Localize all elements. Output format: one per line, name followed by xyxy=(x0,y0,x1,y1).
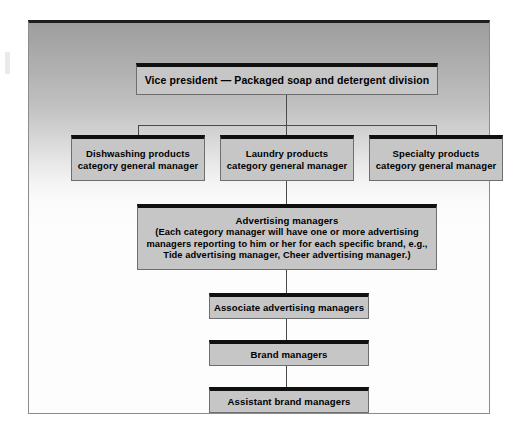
node-dishwashing-line1: Dishwashing products xyxy=(78,148,199,160)
node-brand-managers: Brand managers xyxy=(209,340,369,366)
connector-laundry-to-advertising xyxy=(286,181,287,204)
node-specialty-line1: Specialty products xyxy=(376,148,497,160)
node-dishwashing-products: Dishwashing products category general ma… xyxy=(71,135,205,181)
node-laundry-line1: Laundry products xyxy=(227,148,348,160)
node-advertising-line1: (Each category manager will have one or … xyxy=(146,227,427,239)
node-assistant-label: Assistant brand managers xyxy=(210,396,368,408)
connector-brand-to-assistant xyxy=(286,366,287,387)
connector-bus-to-laundry xyxy=(286,125,287,135)
node-vice-president-label: Vice president — Packaged soap and deter… xyxy=(137,74,437,87)
node-specialty-line2: category general manager xyxy=(376,160,497,172)
connector-bus-to-dishwashing xyxy=(138,125,139,135)
org-chart-canvas: Vice president — Packaged soap and deter… xyxy=(0,0,516,436)
connector-vp-to-bus xyxy=(286,95,287,125)
node-advertising-title: Advertising managers xyxy=(146,215,427,227)
connector-bus-to-specialty xyxy=(436,125,437,135)
node-vice-president: Vice president — Packaged soap and deter… xyxy=(136,63,438,95)
node-advertising-managers: Advertising managers (Each category mana… xyxy=(137,204,437,270)
node-laundry-products: Laundry products category general manage… xyxy=(220,135,354,181)
connector-advertising-to-associate xyxy=(286,270,287,293)
node-advertising-line3: Tide advertising manager, Cheer advertis… xyxy=(146,250,427,262)
node-dishwashing-line2: category general manager xyxy=(78,160,199,172)
connector-associate-to-brand xyxy=(286,319,287,340)
node-associate-label: Associate advertising managers xyxy=(210,302,368,314)
node-assistant-brand-managers: Assistant brand managers xyxy=(209,387,369,413)
scan-artifact xyxy=(5,52,10,74)
connector-horizontal-bus xyxy=(138,125,436,126)
org-chart-frame: Vice president — Packaged soap and deter… xyxy=(28,20,490,414)
node-advertising-line2: managers reporting to him or her for eac… xyxy=(146,239,427,251)
node-associate-advertising-managers: Associate advertising managers xyxy=(209,293,369,319)
node-laundry-line2: category general manager xyxy=(227,160,348,172)
node-specialty-products: Specialty products category general mana… xyxy=(369,135,503,181)
node-brand-label: Brand managers xyxy=(210,349,368,361)
